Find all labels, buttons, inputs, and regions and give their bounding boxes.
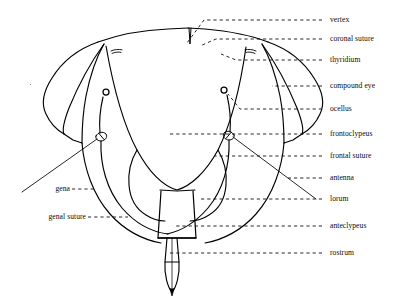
label-rostrum: rostrum — [330, 249, 354, 257]
thyridium-left — [111, 49, 122, 53]
compound-eye-right-inner — [262, 44, 284, 143]
label-genal-suture: genal suture — [0, 213, 86, 221]
head-margin-left — [43, 42, 98, 134]
label-coronal-suture: coronal suture — [330, 35, 374, 43]
label-thyridium: thyridium — [330, 56, 360, 64]
rostrum-tip — [170, 289, 174, 296]
label-ocellus: ocellus — [330, 105, 352, 113]
vertex-outline-right — [188, 28, 268, 42]
label-vertex: vertex — [330, 16, 349, 24]
label-frontal-suture: frontal suture — [330, 152, 371, 160]
vertex-outline-left — [98, 28, 188, 42]
label-lorum: lorum — [330, 195, 348, 203]
antenna-right — [233, 137, 316, 199]
frontal-suture-left — [100, 97, 103, 133]
ocellus-left — [103, 89, 109, 95]
genal-outline-left — [82, 143, 161, 243]
label-frontoclypeus: frontoclypeus — [330, 130, 372, 138]
leader-ocellus — [228, 94, 322, 109]
label-anteclypeus: anteclypeus — [330, 222, 366, 230]
label-antenna: antenna — [330, 174, 354, 182]
compound-eye-left-tip — [64, 134, 82, 143]
head-margin-right — [268, 42, 323, 134]
figure-container: vertex coronal suture thyridium compound… — [0, 0, 396, 303]
label-compound-eye: compound eye — [330, 82, 375, 90]
leader-vertex — [187, 20, 322, 43]
genal-outline-right — [205, 143, 284, 243]
label-gena: gena — [0, 185, 70, 193]
ocellus-right — [221, 87, 227, 93]
thyridium-right — [245, 49, 256, 53]
compound-eye-right-tip — [284, 134, 302, 143]
antennal-socket-left — [96, 132, 107, 141]
coronal-suture-notch — [189, 28, 191, 44]
compound-eye-left-inner — [82, 44, 104, 143]
